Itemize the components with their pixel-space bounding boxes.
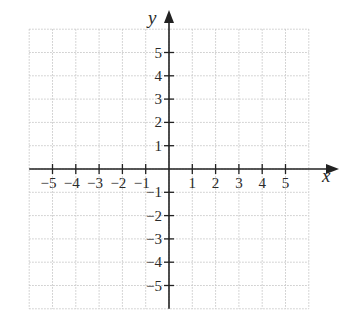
y-tick-label: −5 (146, 278, 162, 294)
x-axis-ticks: −5−4−3−2−112345 (41, 164, 290, 191)
y-axis-label: y (146, 7, 157, 28)
y-tick-label: −3 (146, 231, 162, 247)
y-tick-label: −1 (146, 184, 162, 200)
x-tick-label: 5 (282, 175, 290, 191)
x-tick-label: 1 (189, 175, 197, 191)
x-tick-label: −4 (64, 175, 80, 191)
x-tick-label: 4 (258, 175, 266, 191)
coordinate-plane: −5−4−3−2−112345 54321−1−2−3−4−5 x y (0, 0, 350, 317)
y-tick-label: −2 (146, 208, 162, 224)
x-tick-label: 3 (235, 175, 243, 191)
y-tick-label: 4 (155, 68, 163, 84)
x-tick-label: 2 (212, 175, 220, 191)
y-tick-label: −4 (146, 254, 162, 270)
x-axis-label: x (321, 165, 331, 186)
x-tick-label: −5 (41, 175, 57, 191)
y-tick-label: 3 (155, 91, 163, 107)
y-tick-label: 5 (155, 45, 163, 61)
x-tick-label: −2 (110, 175, 126, 191)
y-tick-label: 1 (155, 138, 163, 154)
y-tick-label: 2 (155, 114, 163, 130)
y-axis-arrow-icon (164, 10, 174, 23)
x-tick-label: −3 (87, 175, 103, 191)
